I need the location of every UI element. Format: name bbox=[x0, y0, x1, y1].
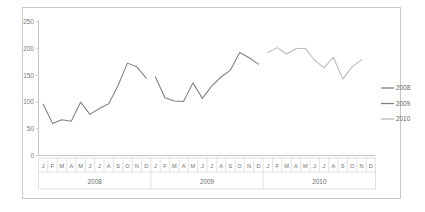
x-axis-month-label: A bbox=[294, 163, 298, 169]
y-axis-tick-label: 250 bbox=[23, 18, 34, 25]
x-axis-month-label: O bbox=[238, 163, 243, 169]
y-axis: 050100150200250 bbox=[23, 18, 38, 159]
x-axis-month-label: J bbox=[89, 163, 92, 169]
x-axis-month-label: O bbox=[125, 163, 130, 169]
x-axis-month-label: F bbox=[51, 163, 55, 169]
x-axis-month-label: N bbox=[359, 163, 363, 169]
y-axis-tick-label: 150 bbox=[23, 72, 34, 79]
x-axis-month-label: J bbox=[323, 163, 326, 169]
x-axis-month-label: D bbox=[369, 163, 373, 169]
x-axis-month-label: J bbox=[201, 163, 204, 169]
x-axis-month-label: S bbox=[116, 163, 120, 169]
x-axis-month-label: M bbox=[303, 163, 308, 169]
x-axis-month-label: S bbox=[229, 163, 233, 169]
x-axis-month-label: J bbox=[98, 163, 101, 169]
x-axis-month-label: J bbox=[266, 163, 269, 169]
x-axis-year-label: 2009 bbox=[200, 178, 215, 185]
series-line-2008 bbox=[43, 63, 146, 123]
x-axis-month-label: J bbox=[154, 163, 157, 169]
legend-label-2008: 2008 bbox=[396, 84, 411, 91]
x-axis-month-label: J bbox=[313, 163, 316, 169]
data-series-group bbox=[43, 48, 361, 124]
x-axis-year-label: 2010 bbox=[312, 178, 327, 185]
x-axis-month-label: D bbox=[144, 163, 148, 169]
x-axis-month-label: J bbox=[210, 163, 213, 169]
series-line-2010 bbox=[268, 48, 362, 80]
x-axis-month-label: A bbox=[332, 163, 336, 169]
x-axis-month-label: F bbox=[163, 163, 167, 169]
year-label-band: 200820092010 bbox=[39, 172, 376, 189]
x-axis-month-label: M bbox=[284, 163, 289, 169]
chart-legend: 200820092010 bbox=[381, 84, 411, 122]
x-axis-month-label: A bbox=[182, 163, 186, 169]
x-axis-month-label: D bbox=[256, 163, 260, 169]
legend-label-2010: 2010 bbox=[396, 115, 411, 122]
x-axis-month-label: N bbox=[247, 163, 251, 169]
x-axis-month-label: N bbox=[135, 163, 139, 169]
x-axis-month-label: M bbox=[78, 163, 83, 169]
x-axis-month-label: A bbox=[219, 163, 223, 169]
x-axis-month-label: S bbox=[341, 163, 345, 169]
x-axis-month-label: M bbox=[191, 163, 196, 169]
month-label-band: JFMAMJJASONDJFMAMJJASONDJFMAMJJASOND bbox=[39, 158, 376, 172]
legend-label-2009: 2009 bbox=[396, 100, 411, 107]
y-axis-tick-label: 0 bbox=[30, 152, 34, 159]
y-axis-tick-label: 200 bbox=[23, 45, 34, 52]
x-axis-month-label: M bbox=[172, 163, 177, 169]
x-axis-month-label: J bbox=[42, 163, 45, 169]
y-axis-tick-label: 100 bbox=[23, 98, 34, 105]
y-axis-tick-label: 50 bbox=[27, 125, 35, 132]
x-axis-month-label: O bbox=[350, 163, 355, 169]
line-chart: 050100150200250 JFMAMJJASONDJFMAMJJASOND… bbox=[0, 0, 425, 212]
x-axis-month-label: A bbox=[69, 163, 73, 169]
x-axis-month-label: M bbox=[60, 163, 65, 169]
x-axis-month-label: A bbox=[107, 163, 111, 169]
x-axis-year-label: 2008 bbox=[88, 178, 103, 185]
x-axis-month-label: F bbox=[275, 163, 279, 169]
series-line-2009 bbox=[156, 52, 259, 101]
